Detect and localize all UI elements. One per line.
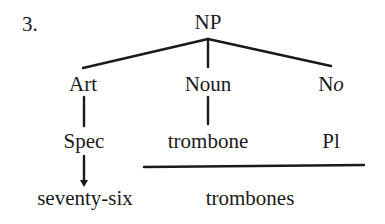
edge-np-art [83,39,208,68]
leaf-trombones: trombones [206,188,295,209]
node-spec: Spec [64,131,105,152]
example-number: 3. [22,14,38,35]
node-art: Art [69,74,97,95]
node-np: NP [195,12,222,33]
node-no: No [318,74,344,95]
node-trombone: trombone [168,131,248,152]
node-no-prefix: N [318,72,333,96]
leaf-seventy-six: seventy-six [37,188,133,209]
node-pl: Pl [322,131,340,152]
underline-merge [144,165,364,167]
node-noun: Noun [185,74,232,95]
node-no-suffix: o [333,72,344,96]
edge-np-no [208,39,331,66]
